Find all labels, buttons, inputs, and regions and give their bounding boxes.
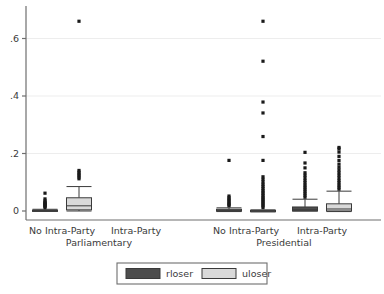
boxplot-figure: 0.2.4.6No Intra-PartyIntra-PartyNo Intra… <box>0 0 384 294</box>
outlier-marker-11 <box>303 171 306 174</box>
box-body <box>327 204 352 211</box>
x-category-label-0: No Intra-Party <box>29 225 95 236</box>
outlier-marker-10 <box>337 163 340 166</box>
outlier-marker-13 <box>337 150 340 153</box>
box-3-uloser <box>327 146 352 212</box>
y-tick-label-3: .6 <box>10 33 19 44</box>
x-category-label-1: Intra-Party <box>111 225 161 236</box>
outlier-marker-8 <box>227 159 230 162</box>
outlier-marker-6 <box>77 20 80 23</box>
box-body <box>67 198 92 210</box>
box-2-uloser <box>251 20 276 212</box>
x-category-label-2: No Intra-Party <box>213 225 279 236</box>
y-tick-label-0: 0 <box>13 205 19 216</box>
outlier-marker-8 <box>43 197 46 200</box>
y-tick-label-1: .2 <box>10 148 19 159</box>
outlier-marker-21 <box>261 100 264 103</box>
y-tick-label-2: .4 <box>10 90 19 101</box>
x-category-label-3: Intra-Party <box>297 225 347 236</box>
outlier-marker-20 <box>261 111 264 114</box>
outlier-marker-7 <box>227 194 230 197</box>
x-group-label-1: Presidential <box>256 237 311 248</box>
outlier-marker-12 <box>337 155 340 158</box>
x-group-label-0: Parliamentary <box>66 237 133 248</box>
outlier-marker-19 <box>261 135 264 138</box>
outlier-marker-9 <box>43 192 46 195</box>
legend-swatch-rloser[interactable] <box>126 269 160 279</box>
chart-canvas: 0.2.4.6No Intra-PartyIntra-PartyNo Intra… <box>0 0 384 294</box>
box-0-uloser <box>67 20 92 211</box>
outlier-marker-23 <box>261 20 264 23</box>
legend-label-uloser[interactable]: uloser <box>242 268 271 279</box>
outlier-marker-22 <box>261 60 264 63</box>
outlier-marker-12 <box>303 166 306 169</box>
outlier-marker-11 <box>337 159 340 162</box>
outlier-marker-13 <box>303 161 306 164</box>
box-0-rloser <box>33 192 58 212</box>
outlier-marker-5 <box>77 169 80 172</box>
outlier-marker-15 <box>337 146 340 149</box>
box-2-rloser <box>217 159 242 212</box>
outlier-marker-14 <box>303 151 306 154</box>
box-body <box>293 207 318 211</box>
box-3-rloser <box>293 151 318 211</box>
outlier-marker-9 <box>337 166 340 169</box>
outlier-marker-18 <box>261 159 264 162</box>
legend-label-rloser[interactable]: rloser <box>166 268 193 279</box>
outlier-marker-8 <box>337 169 340 172</box>
outlier-marker-17 <box>261 175 264 178</box>
legend-swatch-uloser[interactable] <box>202 269 236 279</box>
